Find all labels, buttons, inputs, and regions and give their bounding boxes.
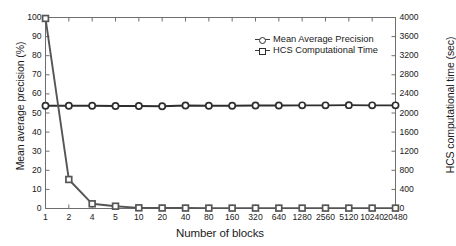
data-point-marker (136, 103, 142, 109)
y-tick-label-left: 100 (0, 12, 42, 22)
data-point-marker (346, 205, 352, 211)
legend-circle-marker-icon (255, 35, 270, 45)
data-point-marker (252, 102, 258, 108)
data-point-marker (393, 205, 399, 211)
legend-item-hcs: HCS Computational Time (255, 45, 378, 56)
data-point-marker (42, 103, 48, 109)
data-point-marker (346, 102, 352, 108)
data-point-marker (66, 177, 72, 183)
data-point-marker (323, 205, 329, 211)
y-tick-label-right: 2800 (400, 69, 444, 79)
data-point-marker (276, 205, 282, 211)
data-point-marker (136, 205, 142, 211)
legend-label-map: Mean Average Precision (273, 35, 374, 44)
data-point-marker (369, 102, 375, 108)
data-point-marker (369, 205, 375, 211)
data-point-marker (159, 205, 165, 211)
x-axis-label: Number of blocks (45, 227, 395, 239)
data-point-marker (206, 205, 212, 211)
y-tick-label-left: 70 (0, 69, 42, 79)
data-point-marker (299, 102, 305, 108)
series-line (46, 105, 396, 106)
data-point-marker (276, 102, 282, 108)
data-point-marker (229, 103, 235, 109)
y-tick-label-left: 20 (0, 165, 42, 175)
y-tick-label-left: 0 (0, 203, 42, 213)
data-point-marker (89, 103, 95, 109)
data-point-marker (229, 205, 235, 211)
y-tick-label-right: 4000 (400, 12, 444, 22)
data-point-marker (113, 203, 119, 209)
y-axis-right-label: HCS computational time (sec) (444, 7, 456, 203)
data-point-marker (183, 205, 189, 211)
y-tick-label-right: 3200 (400, 50, 444, 60)
y-tick-label-left: 90 (0, 31, 42, 41)
y-tick-label-right: 2400 (400, 88, 444, 98)
y-tick-label-right: 1600 (400, 127, 444, 137)
data-point-marker (159, 103, 165, 109)
y-tick-label-right: 800 (400, 165, 444, 175)
y-tick-label-left: 30 (0, 146, 42, 156)
legend-square-marker-icon (255, 46, 270, 56)
y-tick-label-left: 10 (0, 184, 42, 194)
data-point-marker (112, 103, 118, 109)
data-point-marker (299, 205, 305, 211)
y-tick-label-right: 3600 (400, 31, 444, 41)
y-tick-label-right: 2000 (400, 108, 444, 118)
y-tick-label-left: 80 (0, 50, 42, 60)
series-map (42, 102, 398, 109)
y-tick-label-right: 0 (400, 203, 444, 213)
y-tick-label-left: 60 (0, 88, 42, 98)
y-tick-label-left: 50 (0, 108, 42, 118)
data-point-marker (392, 102, 398, 108)
chart-legend: Mean Average Precision HCS Computational… (252, 32, 382, 58)
data-point-marker (89, 201, 95, 207)
data-point-marker (253, 205, 259, 211)
legend-label-hcs: HCS Computational Time (273, 46, 378, 55)
data-point-marker (206, 103, 212, 109)
y-tick-label-right: 1200 (400, 146, 444, 156)
y-tick-label-right: 400 (400, 184, 444, 194)
data-point-marker (66, 103, 72, 109)
data-point-marker (182, 102, 188, 108)
x-tick-label: 20480 (376, 212, 416, 222)
y-tick-label-left: 40 (0, 127, 42, 137)
legend-item-map: Mean Average Precision (255, 34, 378, 45)
data-point-marker (322, 102, 328, 108)
data-point-marker (43, 16, 49, 22)
